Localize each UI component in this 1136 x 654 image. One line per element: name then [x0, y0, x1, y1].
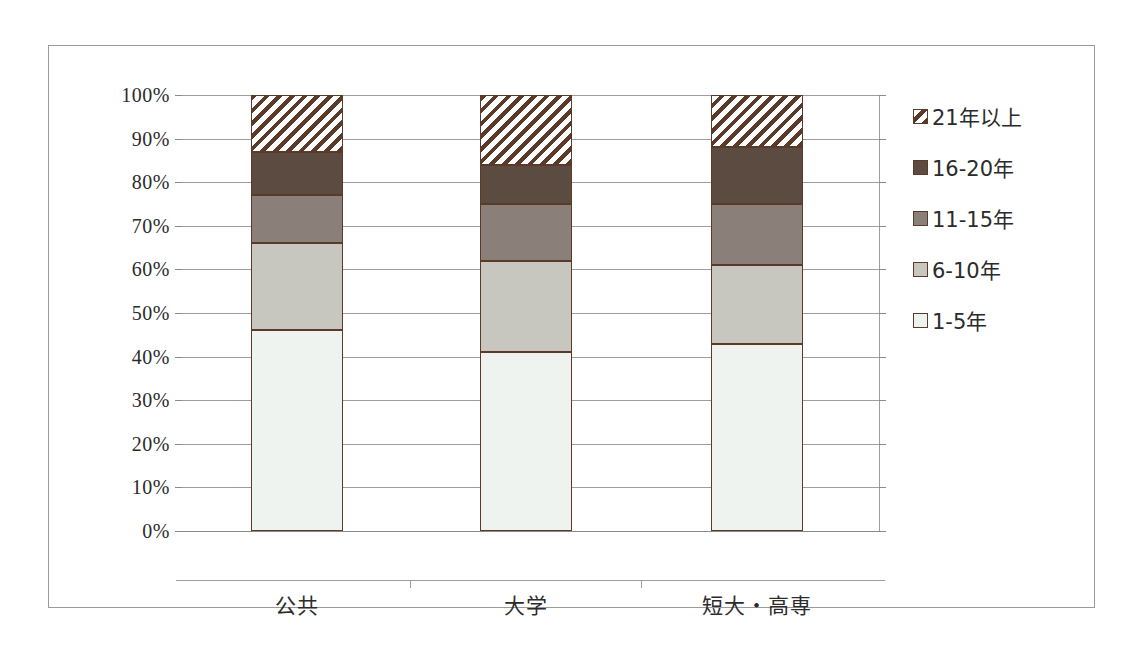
y-tick-mark-left	[175, 313, 182, 314]
bar-segment-6-10年	[480, 261, 572, 353]
bar-segment-1-5年	[480, 352, 572, 531]
bar-大学	[480, 95, 572, 531]
bar-segment-21年以上	[711, 95, 803, 147]
legend-swatch-16-20	[913, 160, 928, 175]
y-tick-mark	[879, 269, 886, 270]
y-tick-mark	[879, 444, 886, 445]
y-tick-mark	[879, 313, 886, 314]
legend-swatch-6-10	[913, 262, 928, 277]
legend-item-label: 21年以上	[932, 101, 1022, 131]
y-tick-mark-left	[175, 487, 182, 488]
y-axis-tick-label: 30%	[132, 389, 170, 412]
gridline-0%	[182, 531, 879, 532]
legend-swatch-11-15	[913, 211, 928, 226]
y-tick-mark	[879, 531, 886, 532]
bar-segment-1-5年	[711, 344, 803, 531]
bar-segment-6-10年	[251, 243, 343, 330]
y-axis-tick-label: 90%	[132, 127, 170, 150]
y-tick-mark	[879, 400, 886, 401]
plot-area: 0%10%20%30%40%50%60%70%80%90%100%	[182, 95, 879, 531]
x-axis-category-label: 短大・高専	[702, 589, 812, 619]
y-tick-mark-left	[175, 139, 182, 140]
y-tick-mark	[879, 139, 886, 140]
y-tick-mark	[879, 226, 886, 227]
legend-item-label: 6-10年	[932, 254, 1001, 284]
bar-segment-11-15年	[251, 195, 343, 243]
y-tick-mark-left	[175, 182, 182, 183]
legend-item-1-5年[interactable]: 1-5年	[913, 300, 1088, 340]
y-axis-tick-label: 40%	[132, 345, 170, 368]
legend-item-label: 11-15年	[932, 203, 1014, 233]
y-tick-mark-left	[175, 531, 182, 532]
y-tick-mark	[879, 357, 886, 358]
bar-公共	[251, 95, 343, 531]
y-axis-tick-label: 60%	[132, 258, 170, 281]
bar-segment-11-15年	[480, 204, 572, 261]
legend-item-label: 1-5年	[932, 305, 987, 335]
x-axis-category-separator-tick	[641, 580, 642, 588]
y-tick-mark-left	[175, 357, 182, 358]
x-axis-line	[176, 580, 885, 581]
y-tick-mark-left	[175, 400, 182, 401]
bar-segment-16-20年	[251, 152, 343, 196]
y-tick-mark-left	[175, 95, 182, 96]
chart-figure: 0%10%20%30%40%50%60%70%80%90%100% 公共大学短大…	[48, 45, 1095, 608]
y-axis-tick-label: 100%	[121, 84, 170, 107]
y-tick-mark-left	[175, 444, 182, 445]
x-axis-category-label: 公共	[275, 589, 319, 619]
x-axis-category-separator-tick	[410, 580, 411, 588]
y-axis-tick-label: 0%	[142, 520, 170, 543]
y-tick-mark	[879, 95, 886, 96]
legend-swatch-1-5	[913, 313, 928, 328]
bar-segment-16-20年	[711, 147, 803, 204]
y-axis-tick-label: 80%	[132, 171, 170, 194]
chart-legend: 21年以上16-20年11-15年6-10年1-5年	[913, 96, 1088, 351]
x-axis-category-label: 大学	[504, 589, 548, 619]
bar-segment-6-10年	[711, 265, 803, 343]
y-axis-tick-label: 20%	[132, 432, 170, 455]
bar-segment-16-20年	[480, 165, 572, 204]
bar-短大・高専	[711, 95, 803, 531]
y-tick-mark	[879, 182, 886, 183]
bar-segment-21年以上	[480, 95, 572, 165]
bar-segment-1-5年	[251, 330, 343, 531]
y-tick-mark	[879, 487, 886, 488]
bar-segment-11-15年	[711, 204, 803, 265]
legend-swatch-21-plus	[913, 109, 928, 124]
legend-item-6-10年[interactable]: 6-10年	[913, 249, 1088, 289]
y-axis-tick-label: 50%	[132, 302, 170, 325]
legend-item-label: 16-20年	[932, 152, 1014, 182]
y-axis-tick-label: 70%	[132, 214, 170, 237]
y-tick-mark-left	[175, 226, 182, 227]
bar-segment-21年以上	[251, 95, 343, 152]
y-axis-tick-label: 10%	[132, 476, 170, 499]
y-tick-mark-left	[175, 269, 182, 270]
legend-item-11-15年[interactable]: 11-15年	[913, 198, 1088, 238]
legend-item-21年以上[interactable]: 21年以上	[913, 96, 1088, 136]
legend-item-16-20年[interactable]: 16-20年	[913, 147, 1088, 187]
